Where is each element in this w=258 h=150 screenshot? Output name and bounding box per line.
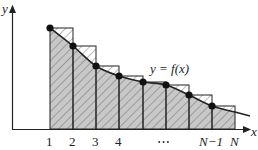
- tick-label-1: 1: [46, 134, 53, 149]
- sample-point: [92, 62, 99, 69]
- sample-point: [185, 91, 192, 98]
- sample-point: [162, 81, 169, 88]
- x-axis-label: x: [250, 124, 257, 139]
- tick-label-3: 3: [92, 134, 99, 149]
- sample-point: [115, 72, 122, 79]
- tick-labels: 1 2 3 4 ⋯ N−1 N: [46, 134, 240, 149]
- sample-point: [139, 78, 146, 85]
- tick-label-n-minus-1: N−1: [198, 134, 223, 149]
- tick-label-2: 2: [69, 134, 76, 149]
- tick-label-ellipsis: ⋯: [157, 134, 170, 149]
- tick-label-4: 4: [115, 134, 122, 149]
- sample-point: [46, 24, 53, 31]
- tick-label-n: N: [229, 134, 240, 149]
- sample-point: [69, 42, 76, 49]
- sample-point: [208, 102, 215, 109]
- y-axis-label: y: [0, 1, 8, 16]
- riemann-sum-diagram: y x y = f(x) 1 2 3 4 ⋯ N−1 N: [0, 0, 258, 150]
- curve-label: y = f(x): [148, 61, 189, 76]
